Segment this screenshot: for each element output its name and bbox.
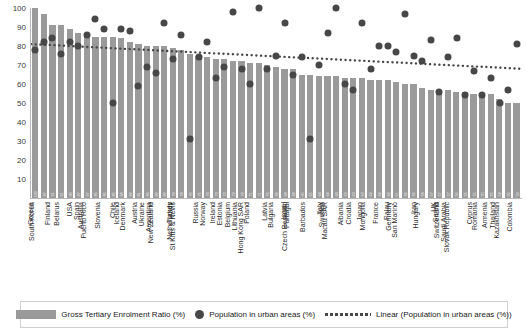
x-tick-label: Romania: [472, 202, 479, 230]
x-label-cell: Colombia: [512, 200, 521, 296]
dot-swatch-icon: [195, 310, 204, 319]
plot-area: 102030405060708090100 100979191898787858…: [0, 0, 526, 300]
y-tick-label: 10: [17, 175, 26, 184]
legend-item-dots: Population in urban areas (%): [195, 310, 315, 319]
y-tick-label: 50: [17, 99, 26, 108]
trendline: [31, 8, 521, 198]
x-label-cell: Barbados: [306, 200, 315, 296]
y-tick-label: 60: [17, 80, 26, 89]
y-tick-label: 80: [17, 42, 26, 51]
legend-label-dots: Population in urban areas (%): [209, 310, 315, 319]
x-tick-label: Russia: [191, 202, 198, 223]
x-tick-label: Hungary: [412, 202, 419, 228]
x-tick-label: South Korea: [28, 202, 35, 241]
x-tick-label: Mongolia: [360, 202, 367, 230]
x-tick-label: Finland: [45, 202, 52, 225]
x-tick-label: Croatia: [345, 202, 352, 225]
x-tick-label: Belarus: [53, 202, 60, 226]
x-tick-label: Colombia: [505, 202, 512, 232]
x-tick-label: Denmark: [119, 202, 126, 230]
y-tick-label: 70: [17, 61, 26, 70]
y-tick-label: 90: [17, 23, 26, 32]
legend-label-trend: Linear (Population in urban areas (%)): [376, 310, 512, 319]
x-label-cell: Poland: [246, 200, 255, 296]
x-tick-label: Czech Republic: [281, 202, 288, 251]
x-tick-label: Armenia: [481, 202, 488, 228]
x-tick-label: Austria: [131, 202, 138, 224]
legend-item-trend: Linear (Population in urban areas (%)): [325, 310, 512, 319]
y-tick-label: 40: [17, 118, 26, 127]
x-label-cell: Portugal: [289, 200, 298, 296]
bar-swatch-icon: [16, 310, 56, 319]
x-tick-label: Hong Kong SAR: [237, 202, 244, 253]
x-tick-label: Belgium: [224, 202, 231, 227]
legend-label-bars: Gross Tertiary Enrolment Ratio (%): [61, 310, 185, 319]
x-label-cell: Netherlands: [177, 200, 186, 296]
x-tick-label: St Kitts & Nevis: [169, 202, 176, 250]
x-label-cell: Bulgaria: [272, 200, 281, 296]
x-label-cell: Hungary: [418, 200, 427, 296]
legend-item-bars: Gross Tertiary Enrolment Ratio (%): [16, 310, 185, 319]
dotted-line-swatch-icon: [325, 313, 371, 316]
combo-chart: 102030405060708090100 100979191898787858…: [0, 0, 526, 332]
y-tick-label: 30: [17, 137, 26, 146]
x-tick-label: Barbados: [299, 202, 306, 232]
x-tick-label: New Zealand: [147, 202, 154, 243]
x-tick-label: Estonia: [216, 202, 223, 225]
x-label-cell: Belarus: [57, 200, 66, 296]
chart-legend: Gross Tertiary Enrolment Ratio (%) Popul…: [20, 301, 508, 328]
x-tick-label: Slovak Republic: [443, 202, 450, 252]
x-axis-labels: GreeceSouth KoreaFinlandBelarusUSASpainA…: [31, 200, 521, 296]
x-tick-label: Bulgaria: [267, 202, 274, 228]
x-tick-label: Puerto Rico: [81, 202, 88, 239]
y-axis: 102030405060708090100: [0, 8, 30, 198]
x-label-cell: Saudi Arabia: [452, 200, 461, 296]
x-tick-label: Kazakhstan: [493, 202, 500, 239]
x-axis-line: [30, 198, 522, 199]
x-tick-label: Ireland: [209, 202, 216, 223]
y-tick-label: 100: [13, 4, 26, 13]
x-tick-label: Slovenia: [94, 202, 101, 229]
y-tick-label: 20: [17, 156, 26, 165]
x-tick-label: Macau SAR: [321, 202, 328, 239]
trendline-path: [31, 44, 521, 69]
x-tick-label: Norway: [199, 202, 206, 226]
x-tick-label: Albania: [336, 202, 343, 225]
x-tick-label: France: [372, 202, 379, 224]
x-label-cell: Slovenia: [100, 200, 109, 296]
x-label-cell: San Marino: [401, 200, 410, 296]
x-tick-label: San Marino: [390, 202, 397, 238]
